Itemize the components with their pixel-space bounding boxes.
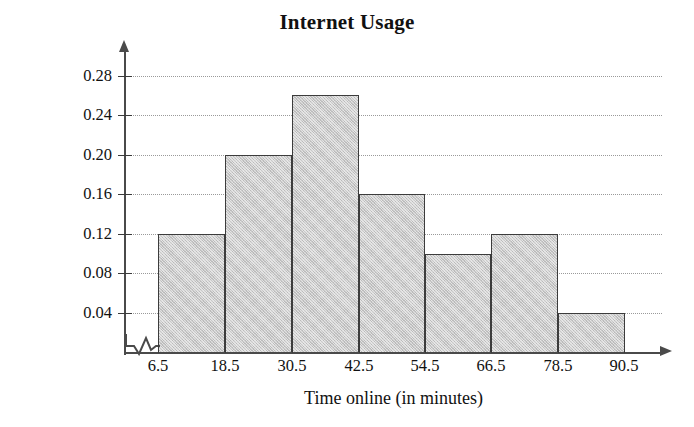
y-axis-line (124, 50, 126, 355)
y-tick-label-0.20: 0.20 (50, 147, 112, 164)
x-tick-66.5 (491, 338, 492, 353)
x-tick-label-54.5: 54.5 (390, 356, 460, 376)
y-tick-label-0.24: 0.24 (50, 107, 112, 124)
y-tick-0.12 (118, 234, 132, 235)
histogram-bar-6 (491, 234, 558, 353)
y-tick-0.08 (118, 273, 132, 274)
y-axis-arrow-icon (119, 40, 129, 52)
x-tick-54.5 (425, 338, 426, 353)
histogram-bar-4 (359, 194, 425, 353)
histogram-bar-3 (292, 95, 359, 353)
x-tick-30.5 (292, 338, 293, 353)
y-tick-0.28 (118, 76, 132, 77)
x-tick-18.5 (225, 338, 226, 353)
x-tick-label-90.5: 90.5 (589, 356, 659, 376)
y-tick-label-0.08: 0.08 (50, 265, 112, 282)
x-tick-label-78.5: 78.5 (523, 356, 593, 376)
gridline-0.28 (125, 76, 662, 77)
histogram-bar-2 (225, 155, 292, 353)
histogram-bar-5 (425, 254, 491, 353)
x-tick-label-66.5: 66.5 (456, 356, 526, 376)
y-tick-0.20 (118, 155, 132, 156)
gridline-0.24 (125, 115, 662, 116)
y-tick-0.04 (118, 313, 132, 314)
x-tick-90.5 (624, 338, 625, 353)
x-axis-title: Time online (in minutes) (125, 388, 662, 409)
plot-area: 0.04 0.08 0.12 0.16 0.20 0.24 0.28 6.5 1… (0, 0, 694, 427)
x-tick-label-42.5: 42.5 (324, 356, 394, 376)
y-tick-label-0.12: 0.12 (50, 226, 112, 243)
x-tick-78.5 (558, 338, 559, 353)
x-tick-label-30.5: 30.5 (257, 356, 327, 376)
y-tick-label-0.16: 0.16 (50, 186, 112, 203)
x-tick-6.5 (158, 338, 159, 353)
x-axis-line (124, 352, 662, 354)
y-tick-label-0.28: 0.28 (50, 68, 112, 85)
y-tick-0.16 (118, 194, 132, 195)
y-tick-label-0.04: 0.04 (50, 305, 112, 322)
x-axis-arrow-icon (660, 346, 672, 356)
x-tick-label-6.5: 6.5 (123, 356, 193, 376)
chart-figure: Internet Usage (0, 0, 694, 427)
x-tick-42.5 (359, 338, 360, 353)
histogram-bar-1 (158, 234, 225, 353)
gridline-0.20 (125, 155, 662, 156)
x-tick-label-18.5: 18.5 (190, 356, 260, 376)
histogram-bar-7 (558, 313, 625, 353)
axis-break-zigzag-icon (126, 332, 160, 356)
y-tick-0.24 (118, 115, 132, 116)
